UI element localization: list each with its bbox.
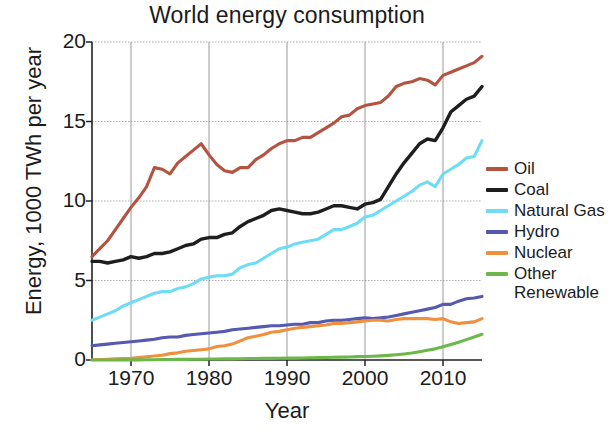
chart-figure: World energy consumption Energy, 1000 TW…: [0, 0, 608, 432]
legend-label: Coal: [514, 180, 549, 200]
legend-label: Oil: [514, 159, 535, 179]
gridlines: [92, 42, 482, 360]
legend-swatch-icon: [486, 167, 508, 171]
legend-label: Other Renewable: [514, 264, 608, 302]
legend-swatch-icon: [486, 230, 508, 234]
legend-swatch-icon: [486, 209, 508, 213]
legend-item[interactable]: Natural Gas: [486, 201, 608, 222]
legend-item[interactable]: Nuclear: [486, 243, 608, 264]
legend-swatch-icon: [486, 251, 508, 255]
chart-legend: OilCoalNatural GasHydroNuclearOther Rene…: [486, 159, 608, 302]
legend-item[interactable]: Coal: [486, 180, 608, 201]
legend-swatch-icon: [486, 272, 508, 276]
legend-label: Hydro: [514, 222, 559, 242]
legend-label: Natural Gas: [514, 201, 605, 221]
legend-swatch-icon: [486, 188, 508, 192]
x-axis-label: Year: [92, 398, 482, 424]
legend-item[interactable]: Hydro: [486, 222, 608, 243]
legend-label: Nuclear: [514, 243, 573, 263]
legend-item[interactable]: Oil: [486, 159, 608, 180]
legend-item[interactable]: Other Renewable: [486, 264, 608, 302]
